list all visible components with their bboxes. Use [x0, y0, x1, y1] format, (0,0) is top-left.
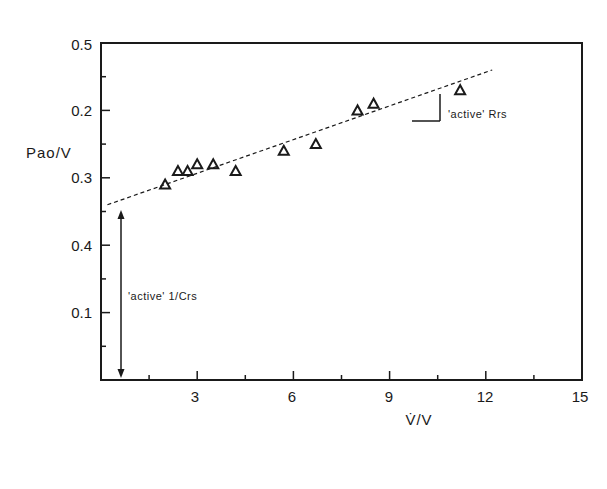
triangle-marker [208, 159, 218, 168]
crs-intercept-arrow [118, 210, 125, 378]
x-tick-label: 12 [477, 388, 494, 405]
chart: 0.2 0.3 0.4 0.1 0.5 3 6 9 12 15 Pao/V V̇… [0, 0, 607, 489]
y-tick-label: 0.5 [71, 36, 92, 53]
triangle-marker [192, 159, 202, 168]
regression-line [107, 70, 492, 205]
y-tick-label: 0.3 [71, 169, 92, 186]
triangle-marker [353, 105, 363, 114]
triangle-marker [455, 85, 465, 94]
y-tick-label: 0.4 [71, 237, 92, 254]
x-tick-label: 3 [191, 388, 199, 405]
y-axis-tick-labels: 0.2 0.3 0.4 0.1 0.5 [71, 36, 92, 321]
x-axis-label: V̇/V [405, 411, 432, 428]
x-tick-label: 15 [572, 388, 589, 405]
y-tick-label: 0.2 [71, 102, 92, 119]
triangle-marker [173, 166, 183, 175]
rrs-annotation: 'active' Rrs [448, 108, 507, 120]
rrs-slope-indicator [412, 94, 440, 121]
plot-frame [101, 43, 582, 380]
y-axis-ticks [101, 77, 110, 347]
x-axis-ticks [149, 371, 534, 380]
y-axis-label: Pao/V [26, 144, 72, 161]
triangle-marker [231, 166, 241, 175]
triangle-marker [279, 146, 289, 155]
x-tick-label: 6 [288, 388, 296, 405]
triangle-marker [369, 99, 379, 108]
y-tick-label: 0.1 [71, 304, 92, 321]
crs-annotation: 'active' 1/Crs [128, 290, 197, 302]
x-axis-tick-labels: 3 6 9 12 15 [191, 388, 589, 405]
triangle-marker [160, 180, 170, 189]
triangle-marker [311, 139, 321, 148]
x-tick-label: 9 [385, 388, 393, 405]
data-points [160, 85, 465, 188]
triangle-marker [183, 166, 193, 175]
